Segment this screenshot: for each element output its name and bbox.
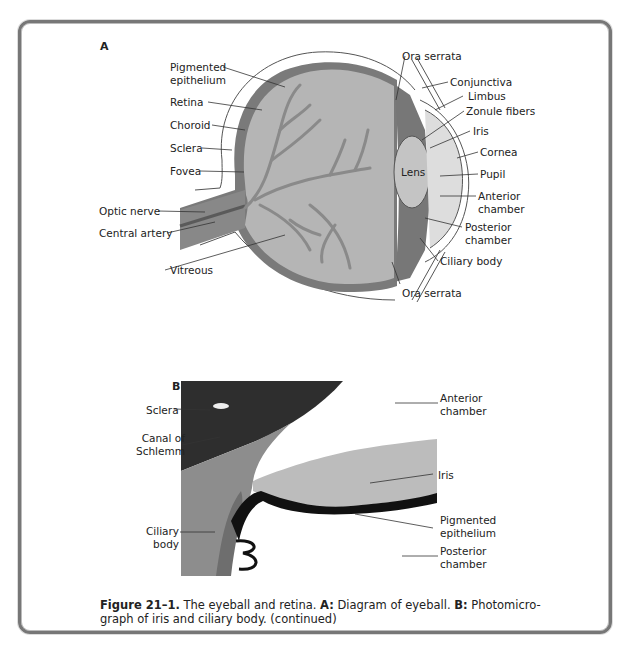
label-b-anterior-chamber: Anteriorchamber bbox=[440, 392, 487, 417]
figure-caption: Figure 21–1. The eyeball and retina. A: … bbox=[100, 598, 570, 626]
label-b-pigmented-epithelium: Pigmentedepithelium bbox=[440, 514, 496, 539]
label-b-canal-of-schlemm: Canal ofSchlemm bbox=[136, 432, 185, 457]
label-b-sclera: Sclera bbox=[146, 404, 179, 417]
label-b-iris: Iris bbox=[438, 469, 454, 482]
photomicrograph-leaders bbox=[0, 0, 628, 647]
label-b-posterior-chamber: Posteriorchamber bbox=[440, 545, 487, 570]
label-b-ciliary-body: Ciliarybody bbox=[146, 525, 179, 550]
figure-number: Figure 21–1. bbox=[100, 598, 180, 612]
